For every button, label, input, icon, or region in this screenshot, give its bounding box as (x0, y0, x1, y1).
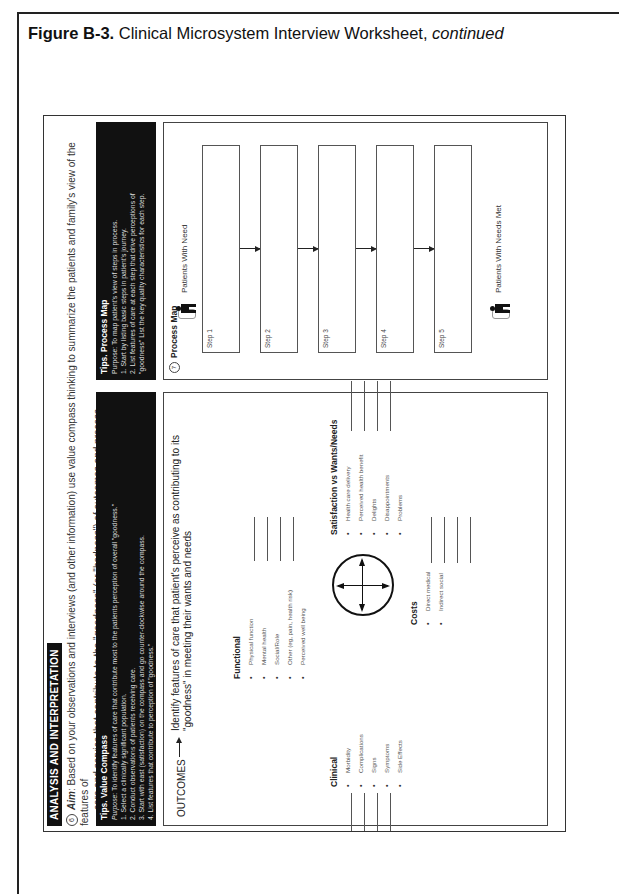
write-line[interactable] (254, 517, 255, 561)
satisfaction-title: Satisfaction vs Wants/Needs (329, 420, 339, 535)
process-step-box[interactable]: Step 1 (202, 145, 240, 353)
write-line[interactable] (470, 517, 471, 563)
patients-with-need-label: Patients With Need (180, 225, 189, 293)
step-number-badge: 6 (66, 814, 78, 826)
worksheet-rotated: ANALYSIS AND INTERPRETATION 6Aim: Based … (43, 115, 566, 832)
arrow-down-icon (414, 248, 434, 249)
write-line[interactable] (431, 517, 432, 563)
write-line[interactable] (364, 793, 365, 831)
write-line[interactable] (351, 381, 352, 431)
tips-process-map: Tips. Process Map Purpose: To map patien… (96, 122, 156, 380)
write-line[interactable] (293, 517, 294, 561)
write-line[interactable] (364, 381, 365, 431)
patient-figure-icon (176, 301, 196, 315)
write-line[interactable] (390, 793, 391, 831)
process-step-box[interactable]: Step 4 (376, 145, 414, 353)
write-line[interactable] (457, 517, 458, 563)
outcomes-description: Identify features of care that patient's… (170, 401, 194, 731)
costs-title: Costs (409, 601, 419, 625)
process-step-box[interactable]: Step 5 (434, 145, 472, 353)
patients-with-needs-met-label: Patients With Needs Met (494, 205, 503, 293)
tips-value-compass: Tips. Value Compass Purpose: To identify… (96, 392, 156, 826)
arrow-down-icon (356, 248, 376, 249)
functional-list: Physical function Mental health Social/R… (244, 590, 309, 679)
satisfaction-list: Health care delivery Perceived health be… (341, 455, 406, 535)
arrow-down-icon (240, 248, 260, 249)
process-step-box[interactable]: Step 3 (318, 145, 356, 353)
functional-title: Functional (232, 636, 242, 679)
write-line[interactable] (377, 793, 378, 831)
value-compass-icon (332, 554, 394, 616)
arrow-down-icon (298, 248, 318, 249)
outcomes-label: OUTCOMES (176, 759, 187, 817)
process-step-box[interactable]: Step 2 (260, 145, 298, 353)
write-line[interactable] (377, 381, 378, 431)
write-line[interactable] (444, 517, 445, 563)
costs-list: Direct medical Indirect social (421, 572, 447, 625)
process-map-panel: 7Process Map Patients With Need Step 1 S… (163, 122, 548, 380)
arrow-right-icon (179, 739, 180, 757)
write-line[interactable] (267, 517, 268, 561)
figure-title: Figure B-3. Clinical Microsystem Intervi… (28, 24, 504, 43)
write-line[interactable] (390, 381, 391, 431)
value-compass-panel: OUTCOMES Identify features of care that … (163, 392, 548, 826)
clinical-list: Morbidity Complications Signs Symptoms S… (341, 734, 406, 787)
write-line[interactable] (280, 517, 281, 561)
patient-figure-icon (490, 301, 510, 315)
section-header: ANALYSIS AND INTERPRETATION (47, 643, 62, 826)
write-line[interactable] (351, 793, 352, 831)
clinical-title: Clinical (329, 757, 339, 787)
